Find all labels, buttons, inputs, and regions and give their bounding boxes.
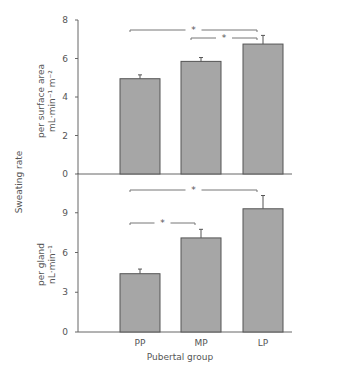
bar-PP	[120, 79, 160, 174]
x-axis-title: Pubertal group	[147, 352, 214, 362]
bar-PP	[120, 274, 160, 332]
significance-star: *	[160, 218, 165, 228]
bar-MP	[181, 61, 221, 174]
sweating-rate-chart: 02468**per surface areamL·min⁻¹ m⁻²0369*…	[0, 0, 342, 372]
x-tick-label: MP	[194, 338, 208, 348]
significance-star: *	[191, 185, 196, 195]
shared-y-axis-label: Sweating rate	[14, 150, 24, 213]
y-tick-label: 6	[62, 54, 68, 64]
y-tick-label: 8	[62, 15, 68, 25]
y-tick-label: 9	[62, 208, 68, 218]
y-tick-label: 0	[62, 327, 68, 337]
x-tick-label: LP	[258, 338, 269, 348]
significance-star: *	[222, 33, 227, 43]
y-tick-label: 4	[62, 92, 68, 102]
bar-LP	[243, 209, 283, 332]
y-axis-label-line2: nL·min⁻¹	[47, 245, 57, 284]
significance-star: *	[191, 25, 196, 35]
bar-MP	[181, 238, 221, 332]
x-tick-label: PP	[135, 338, 146, 348]
y-axis-label-line2: mL·min⁻¹ m⁻²	[47, 70, 57, 132]
y-axis-label-line1: per surface area	[36, 64, 46, 138]
y-tick-label: 6	[62, 248, 68, 258]
y-axis-label-line1: per gland	[36, 243, 46, 286]
y-tick-label: 2	[62, 131, 68, 141]
y-tick-label: 3	[62, 287, 68, 297]
bar-LP	[243, 44, 283, 174]
y-tick-label: 0	[62, 169, 68, 179]
